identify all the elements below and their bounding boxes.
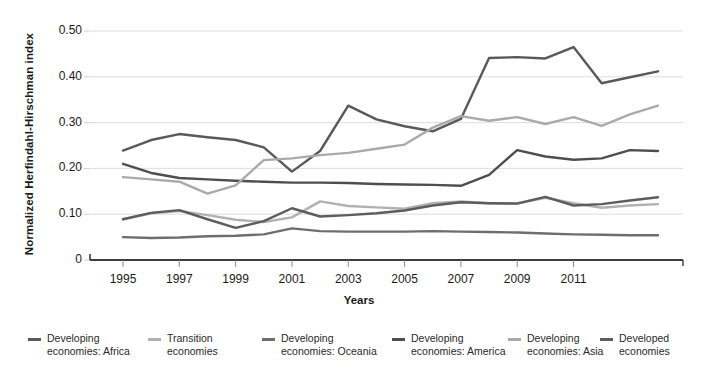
x-axis-tick-label: 2011 [544,272,604,286]
x-axis-tick-label: 2009 [487,272,547,286]
x-axis-tick-label: 2005 [375,272,435,286]
series-line [123,47,658,172]
x-axis-tick-label: 2001 [262,272,322,286]
series-line [123,197,658,228]
legend-item-label: Developing economies: Asia [527,332,603,357]
chart-legend: Developing economies: AfricaTransition e… [0,326,718,381]
line-chart-svg [0,0,718,318]
legend-item-label: Developing economies: Africa [47,332,130,357]
x-axis-tick-label: 1999 [206,272,266,286]
legend-item-label: Developing economies: America [411,332,506,357]
legend-item[interactable]: Developing economies: Oceania [262,332,377,357]
legend-item-label: Developing economies: Oceania [281,332,377,357]
y-axis-tick-label: 0 [20,252,82,266]
legend-line-icon [508,338,521,341]
y-axis-tick-label: 0.30 [20,115,82,129]
legend-item[interactable]: Developing economies: Africa [28,332,130,357]
series-line [123,106,658,194]
chart-plot-area: Normalized Herfindahl-Hirschman index Ye… [0,0,718,318]
series-line [123,228,658,238]
legend-item[interactable]: Developed economies [600,332,670,357]
x-axis-title: Years [0,294,718,306]
series-line [123,150,658,186]
legend-item[interactable]: Developing economies: America [392,332,506,357]
legend-item[interactable]: Developing economies: Asia [508,332,603,357]
legend-item[interactable]: Transition economies [148,332,218,357]
x-axis-tick-label: 2003 [318,272,378,286]
x-axis-tick-label: 1995 [93,272,153,286]
legend-line-icon [600,338,613,341]
y-axis-tick-label: 0.10 [20,206,82,220]
y-axis-tick-label: 0.40 [20,69,82,83]
legend-item-label: Transition economies [167,332,218,357]
chart-figure: Normalized Herfindahl-Hirschman index Ye… [0,0,718,381]
legend-line-icon [262,338,275,341]
y-axis-tick-label: 0.50 [20,23,82,37]
x-axis-tick-label: 2007 [431,272,491,286]
x-axis-tick-label: 1997 [149,272,209,286]
legend-item-label: Developed economies [619,332,670,357]
legend-line-icon [148,338,161,341]
y-axis-tick-label: 0.20 [20,160,82,174]
legend-line-icon [392,338,405,341]
legend-line-icon [28,338,41,341]
